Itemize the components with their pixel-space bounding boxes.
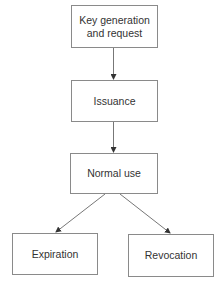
node-issuance: Issuance — [71, 80, 158, 122]
node-normal-use: Normal use — [70, 153, 158, 194]
node-label: Issuance — [89, 95, 139, 108]
edge-normal-use-to-revocation — [120, 194, 170, 233]
node-key-generation-and-request: Key generation and request — [71, 5, 158, 48]
edge-normal-use-to-expiration — [56, 194, 105, 232]
node-label: Expiration — [28, 248, 83, 261]
node-label: Key generation and request — [75, 14, 154, 40]
node-expiration: Expiration — [12, 233, 98, 275]
node-revocation: Revocation — [128, 234, 214, 277]
node-label: Normal use — [83, 167, 145, 180]
node-label: Revocation — [141, 249, 202, 262]
